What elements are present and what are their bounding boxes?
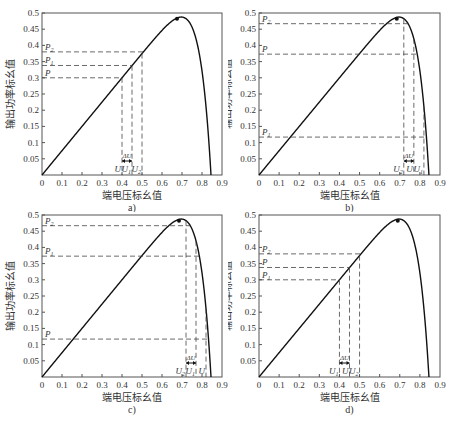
level-label: P1 [261, 127, 271, 138]
level-subscript: 2 [51, 221, 54, 227]
level-label: P2 [44, 42, 54, 53]
y-tick-label: 0.35 [240, 57, 256, 67]
voltage-label: U1 [186, 366, 196, 377]
y-tick-label: 0.1 [245, 340, 256, 350]
y-tick-label: 0.05 [23, 154, 39, 164]
x-tick-label: 0.4 [334, 178, 346, 188]
x-tick-label: 0.2 [294, 178, 305, 188]
level-subscript: 1 [268, 132, 271, 138]
y-tick-label: 0.2 [245, 105, 256, 115]
voltage-label: U2 [132, 164, 142, 175]
voltage-label: U1 [329, 366, 339, 377]
x-tick-label: 0.8 [196, 380, 208, 390]
x-tick-label: 0.5 [354, 178, 366, 188]
y-axis-label: 输出功率标幺值 [228, 59, 233, 129]
y-tick-label: 0.25 [23, 89, 39, 99]
voltage-subscript: 2 [400, 169, 403, 175]
voltage-label: U2 [349, 366, 359, 377]
x-tick-label: 0.5 [136, 178, 148, 188]
voltage-label: U1 [413, 164, 423, 175]
y-tick-label: 0.05 [240, 154, 256, 164]
x-tick-label: 0.7 [394, 178, 406, 188]
x-tick-label: 0.9 [216, 178, 228, 188]
level-label: P1 [44, 246, 54, 257]
chart-svg: 00.10.20.30.40.50.60.70.80.90.050.10.150… [228, 202, 456, 424]
y-tick-label: 0.5 [28, 8, 40, 18]
x-axis-label: 端电压标幺值 [320, 391, 380, 403]
x-tick-label: 0.3 [96, 380, 108, 390]
voltage-label: U [342, 366, 349, 376]
level-subscript: 2 [268, 19, 271, 25]
x-tick-label: 0.2 [76, 380, 87, 390]
level-label: P [44, 68, 51, 78]
y-tick-label: 0.45 [240, 24, 256, 34]
voltage-label: U2 [393, 164, 403, 175]
voltage-subscript: 1 [335, 371, 338, 377]
chart-panel-a: 00.10.20.30.40.50.60.70.80.90.050.10.150… [0, 0, 228, 212]
voltage-label: U2 [176, 366, 186, 377]
y-tick-label: 0.45 [240, 226, 256, 236]
delta-u-label: ΔU [403, 152, 414, 160]
chart-panel-b: 00.10.20.30.40.50.60.70.80.90.050.10.150… [228, 0, 456, 212]
level-subscript: 1 [51, 251, 54, 257]
mpp-marker [177, 219, 181, 223]
y-tick-label: 0.5 [28, 210, 40, 220]
chart-svg: 00.10.20.30.40.50.60.70.80.90.050.10.150… [0, 0, 228, 212]
y-tick-label: 0.4 [245, 40, 257, 50]
x-tick-label: 0.6 [156, 178, 168, 188]
x-tick-label: 0 [40, 178, 45, 188]
y-tick-label: 0.45 [23, 226, 39, 236]
x-axis-label: 端电压标幺值 [320, 189, 380, 201]
y-tick-label: 0.2 [28, 307, 39, 317]
voltage-subscript: 2 [356, 371, 359, 377]
y-tick-label: 0.25 [240, 89, 256, 99]
x-tick-label: 0.1 [273, 178, 284, 188]
x-axis-label: 端电压标幺值 [102, 189, 162, 201]
delta-u-label: ΔU [185, 354, 196, 362]
level-label: P2 [261, 244, 271, 255]
x-tick-label: 0 [40, 380, 45, 390]
mpp-marker [175, 17, 179, 21]
y-tick-label: 0.2 [28, 105, 39, 115]
level-label: P [44, 329, 51, 339]
voltage-label: U [199, 366, 206, 376]
x-axis-label: 端电压标幺值 [102, 391, 162, 403]
x-tick-label: 0.1 [273, 380, 284, 390]
y-tick-label: 0.4 [28, 40, 40, 50]
y-tick-label: 0.15 [240, 323, 256, 333]
y-tick-label: 0.25 [240, 291, 256, 301]
level-label: P [261, 257, 268, 267]
chart-panel-c: 00.10.20.30.40.50.60.70.80.90.050.10.150… [0, 202, 228, 424]
y-tick-label: 0.4 [245, 242, 257, 252]
level-subscript: 2 [51, 47, 54, 53]
voltage-subscript: 2 [138, 169, 141, 175]
x-tick-label: 0.8 [414, 380, 426, 390]
delta-u-label: ΔU [121, 152, 132, 160]
x-tick-label: 0.5 [136, 380, 148, 390]
chart-panel-d: 00.10.20.30.40.50.60.70.80.90.050.10.150… [228, 202, 456, 424]
y-tick-label: 0.3 [245, 275, 257, 285]
y-tick-label: 0.15 [23, 121, 39, 131]
level-label: P2 [261, 14, 271, 25]
y-tick-label: 0.1 [28, 340, 39, 350]
mpp-marker [395, 17, 399, 21]
y-tick-label: 0.3 [28, 275, 40, 285]
voltage-label: U1 [122, 164, 132, 175]
x-tick-label: 0 [257, 178, 262, 188]
x-tick-label: 0.3 [314, 178, 326, 188]
y-axis-label: 输出功率标幺值 [4, 261, 16, 331]
y-tick-label: 0.1 [245, 138, 256, 148]
x-tick-label: 0.5 [354, 380, 366, 390]
mpp-marker [396, 219, 400, 223]
y-tick-label: 0.05 [240, 356, 256, 366]
chart-svg: 00.10.20.30.40.50.60.70.80.90.050.10.150… [0, 202, 228, 424]
level-subscript: 1 [268, 275, 271, 281]
x-tick-label: 0.2 [76, 178, 87, 188]
x-tick-label: 0.7 [394, 380, 406, 390]
chart-svg: 00.10.20.30.40.50.60.70.80.90.050.10.150… [228, 0, 456, 212]
level-subscript: 1 [51, 60, 54, 66]
x-tick-label: 0 [257, 380, 262, 390]
x-tick-label: 0.9 [216, 380, 228, 390]
y-tick-label: 0.5 [245, 8, 257, 18]
y-tick-label: 0.4 [28, 242, 40, 252]
